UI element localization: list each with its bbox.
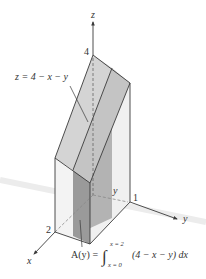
x-tick-label: 2: [46, 224, 51, 235]
surface-equation-label: z = 4 − x − y: [14, 71, 69, 82]
upper-limit: x = 2: [109, 240, 125, 247]
integrand: (4 − x − y) dx: [132, 249, 189, 261]
x-axis: [34, 232, 55, 254]
y-axis-label: y: [182, 213, 188, 224]
lower-limit: x = 0: [107, 261, 123, 268]
z-tick-label: 4: [84, 46, 89, 57]
solid-diagram: z 4 z = 4 − x − y y 1 y 2 x A(y) = ∫ x =…: [0, 0, 206, 279]
y-tick-label: 1: [133, 192, 138, 203]
area-formula-lhs: A(y) =: [71, 249, 98, 261]
area-formula: A(y) = ∫ x = 2 x = 0 (4 − x − y) dx: [71, 240, 189, 268]
z-axis-label: z: [90, 9, 95, 20]
slice-y-label: y: [112, 185, 118, 196]
integral-sign: ∫: [101, 247, 108, 267]
x-axis-label: x: [26, 255, 32, 266]
